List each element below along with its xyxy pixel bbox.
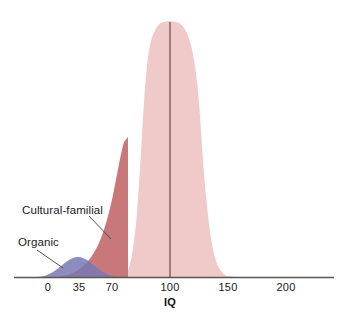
distribution-plot xyxy=(0,0,340,317)
cultural-familial-label: Cultural-familial xyxy=(22,204,103,216)
iq-distribution-figure: Cultural-familial Organic 0 35 70 100 15… xyxy=(0,0,340,317)
x-axis-title: IQ xyxy=(164,296,176,308)
normal-distribution-area xyxy=(120,21,262,277)
xtick-label-100: 100 xyxy=(161,281,180,293)
xtick-label-35: 35 xyxy=(73,281,86,293)
xtick-label-0: 0 xyxy=(45,281,51,293)
organic-label: Organic xyxy=(18,236,59,248)
xtick-label-70: 70 xyxy=(106,281,119,293)
organic-leader-line xyxy=(37,250,63,268)
xtick-label-150: 150 xyxy=(219,281,238,293)
xtick-label-200: 200 xyxy=(277,281,296,293)
